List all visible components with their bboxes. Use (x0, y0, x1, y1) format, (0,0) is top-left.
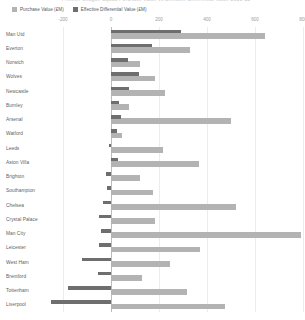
chart-row[interactable]: Leeds (0, 141, 305, 155)
category-label: Watford (6, 131, 23, 136)
x-tick-label: 200 (155, 17, 163, 22)
legend-entry[interactable]: Purchase Value (£M) (12, 7, 64, 12)
category-label: Arsenal (6, 117, 23, 122)
bar-purchase-value (111, 147, 163, 153)
bar-purchase-value (111, 104, 129, 110)
legend-label: Effective Differential Value (£M) (81, 7, 147, 12)
category-label: Liverpool (6, 302, 26, 307)
plot-area: Man UtdEvertonNorwichWolvesNewcastleBurn… (0, 27, 305, 312)
category-label: Southampton (6, 188, 35, 193)
category-label: Brentford (6, 274, 26, 279)
chart-row[interactable]: Leicester (0, 241, 305, 255)
category-label: Aston Villa (6, 160, 29, 165)
category-label: Chelsea (6, 203, 24, 208)
bar-purchase-value (111, 247, 200, 253)
x-tick-label: 800 (299, 17, 305, 22)
bar-purchase-value (111, 261, 170, 267)
bar-effective-differential-value (99, 215, 111, 218)
category-label: Crystal Palace (6, 217, 38, 222)
bar-purchase-value (111, 90, 165, 96)
category-label: Man Utd (6, 32, 24, 37)
category-label: Man City (6, 231, 25, 236)
bar-purchase-value (111, 204, 236, 210)
bar-purchase-value (111, 175, 140, 181)
bar-purchase-value (111, 304, 225, 310)
bar-purchase-value (111, 289, 187, 295)
chart-row[interactable]: Everton (0, 41, 305, 55)
bar-purchase-value (111, 118, 231, 124)
bar-purchase-value (111, 133, 122, 139)
chart-row[interactable]: Liverpool (0, 298, 305, 312)
legend-label: Purchase Value (£M) (20, 7, 64, 12)
chart-row[interactable]: Aston Villa (0, 155, 305, 169)
chart-row[interactable]: Burnley (0, 98, 305, 112)
bar-effective-differential-value (51, 300, 111, 303)
category-label: Leicester (6, 245, 26, 250)
chart-row[interactable]: Watford (0, 127, 305, 141)
category-label: Brighton (6, 174, 24, 179)
bar-purchase-value (111, 76, 155, 82)
legend-entry[interactable]: Effective Differential Value (£M) (73, 7, 147, 12)
bar-effective-differential-value (111, 129, 117, 132)
chart-row[interactable]: Brighton (0, 170, 305, 184)
x-tick-label: 400 (203, 17, 211, 22)
bar-effective-differential-value (111, 44, 152, 47)
category-label: Norwich (6, 60, 24, 65)
chart-row[interactable]: Crystal Palace (0, 212, 305, 226)
chart-row[interactable]: Man City (0, 227, 305, 241)
chart-row[interactable]: Norwich (0, 56, 305, 70)
bar-effective-differential-value (98, 272, 111, 275)
chart-row[interactable]: Wolves (0, 70, 305, 84)
category-label: Leeds (6, 146, 19, 151)
bar-effective-differential-value (111, 58, 128, 61)
bar-purchase-value (111, 33, 265, 39)
chart-title: Premier League Squad Purchase Value vs E… (62, 0, 250, 2)
bar-effective-differential-value (68, 286, 111, 289)
bar-purchase-value (111, 218, 155, 224)
bar-effective-differential-value (111, 30, 181, 33)
bar-effective-differential-value (101, 229, 111, 232)
bar-effective-differential-value (111, 72, 139, 75)
category-label: Burnley (6, 103, 23, 108)
bar-chart: Premier League Squad Purchase Value vs E… (0, 0, 305, 320)
category-label: Wolves (6, 74, 22, 79)
bar-purchase-value (111, 61, 140, 67)
bar-effective-differential-value (82, 258, 111, 261)
chart-row[interactable]: Arsenal (0, 113, 305, 127)
x-tick-label: 600 (251, 17, 259, 22)
bar-purchase-value (111, 275, 142, 281)
bar-effective-differential-value (106, 172, 111, 175)
chart-row[interactable]: Man Utd (0, 27, 305, 41)
bar-effective-differential-value (103, 201, 111, 204)
chart-row[interactable]: Newcastle (0, 84, 305, 98)
bar-purchase-value (111, 161, 199, 167)
bar-purchase-value (111, 47, 190, 53)
bar-effective-differential-value (99, 243, 111, 246)
chart-row[interactable]: Tottenham (0, 284, 305, 298)
bar-effective-differential-value (111, 115, 121, 118)
bar-effective-differential-value (107, 186, 111, 189)
category-label: West Ham (6, 260, 29, 265)
category-label: Tottenham (6, 288, 29, 293)
chart-row[interactable]: Chelsea (0, 198, 305, 212)
legend-swatch-icon (73, 7, 78, 12)
bar-effective-differential-value (109, 144, 111, 147)
chart-title-clipped: Premier League Squad Purchase Value vs E… (0, 0, 305, 4)
bar-effective-differential-value (111, 87, 129, 90)
bar-purchase-value (111, 232, 301, 238)
x-tick-label: 0 (110, 17, 113, 22)
x-tick-label: -200 (58, 17, 67, 22)
chart-legend: Purchase Value (£M)Effective Differentia… (12, 5, 147, 14)
chart-row[interactable]: West Ham (0, 255, 305, 269)
bar-purchase-value (111, 190, 153, 196)
legend-swatch-icon (12, 7, 17, 12)
chart-row[interactable]: Brentford (0, 269, 305, 283)
category-label: Newcastle (6, 89, 29, 94)
bar-effective-differential-value (111, 101, 119, 104)
chart-row[interactable]: Southampton (0, 184, 305, 198)
x-axis-ticks: -2000200400600800 (0, 17, 305, 26)
bar-effective-differential-value (111, 158, 118, 161)
category-label: Everton (6, 46, 23, 51)
